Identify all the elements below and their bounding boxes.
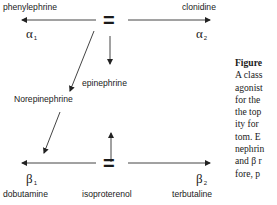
dobutamine-label: dobutamine [3, 190, 48, 199]
caption-line: tom. E [235, 131, 277, 143]
alpha2-receptor: α2 [196, 27, 207, 41]
top-equals-sign: = [103, 10, 115, 30]
caption-line: and β r [235, 155, 277, 167]
beta1-receptor: β1 [26, 172, 37, 186]
figure-caption: Figure A class agonist for the the top i… [235, 57, 277, 180]
caption-line: fore, p [235, 168, 277, 180]
caption-line: agonist [235, 82, 277, 94]
clonidine-label: clonidine [182, 3, 216, 12]
arrow-norepinephrine-to-beta1 [44, 112, 60, 153]
caption-line: ity for [235, 118, 277, 130]
caption-line: nephrin [235, 143, 277, 155]
epinephrine-label: epinephrine [82, 79, 127, 88]
alpha1-receptor: α1 [26, 27, 37, 41]
terbutaline-label: terbutaline [172, 190, 212, 199]
beta2-receptor: β2 [196, 172, 207, 186]
caption-line: for the [235, 94, 277, 106]
caption-line: the top [235, 106, 277, 118]
phenylephrine-label: phenylephrine [3, 3, 57, 12]
isoproterenol-label: isoproterenol [82, 190, 132, 199]
caption-line: A class [235, 69, 277, 81]
norepinephrine-label: Norepinephrine [14, 95, 73, 104]
bottom-equals-sign: = [103, 153, 115, 173]
figure-label: Figure [235, 57, 277, 69]
